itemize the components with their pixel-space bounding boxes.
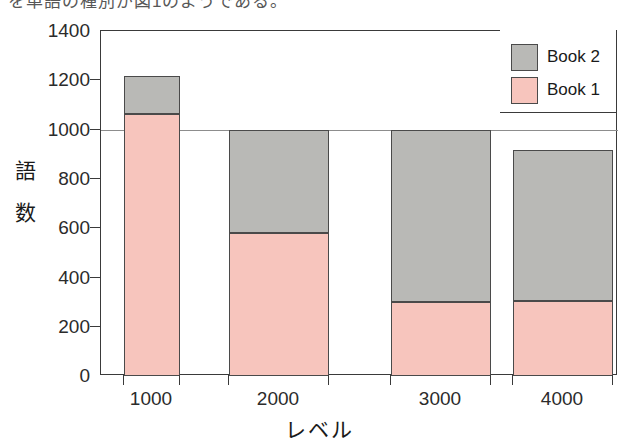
bar-segment-book1-4000	[513, 301, 613, 376]
legend: Book 2 Book 1	[500, 30, 617, 113]
legend-label-book2: Book 2	[547, 47, 600, 67]
x-tick-label-3000: 3000	[385, 388, 495, 410]
x-tick-mark-1	[228, 375, 229, 385]
bar-segment-book2-2000	[229, 130, 329, 233]
legend-item-book2: Book 2	[511, 42, 600, 72]
y-tick-label-200: 200	[6, 317, 90, 336]
x-tick-label-4000: 4000	[507, 388, 617, 410]
bar-segment-book1-3000	[391, 302, 491, 376]
stacked-bar-chart: 1400 1200 1000 800 600 400 200 0 語 数	[0, 0, 638, 443]
x-tick-mark-4	[490, 375, 491, 385]
legend-swatch-book2-icon	[511, 44, 538, 71]
x-tick-mark-0b	[179, 375, 180, 385]
x-tick-mark-2	[328, 375, 329, 385]
bar-segment-book2-1000	[124, 76, 180, 114]
bar-segment-book2-3000	[391, 130, 491, 302]
bar-segment-book2-4000	[513, 150, 613, 301]
x-tick-mark-3	[390, 375, 391, 385]
legend-label-book1: Book 1	[547, 80, 600, 100]
legend-item-book1: Book 1	[511, 75, 600, 105]
x-tick-label-2000: 2000	[223, 388, 333, 410]
x-tick-mark-5	[512, 375, 513, 385]
x-axis-title: レベル	[0, 413, 638, 443]
x-tick-mark-0a	[123, 375, 124, 385]
y-tick-label-1000: 1000	[6, 120, 90, 139]
y-axis-title: 語 数	[8, 150, 42, 234]
y-tick-label-0: 0	[6, 366, 90, 385]
y-axis-title-char-1: 語	[8, 150, 42, 192]
x-tick-mark-6	[612, 375, 613, 385]
x-tick-label-1000: 1000	[96, 388, 206, 410]
bar-segment-book1-1000	[124, 114, 180, 376]
legend-swatch-book1-icon	[511, 77, 538, 104]
y-tick-label-1400: 1400	[6, 21, 90, 40]
y-tick-label-400: 400	[6, 268, 90, 287]
y-tick-label-1200: 1200	[6, 70, 90, 89]
bar-segment-book1-2000	[229, 233, 329, 376]
y-axis-title-char-2: 数	[8, 192, 42, 234]
